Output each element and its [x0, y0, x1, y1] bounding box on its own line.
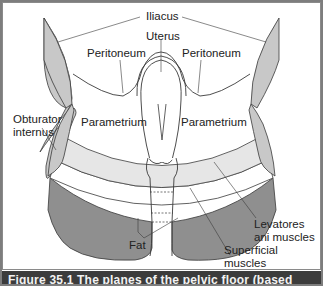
uterus: [141, 60, 181, 164]
leader-iliacus-left: [58, 17, 140, 42]
leader-peritoneum-right: [198, 60, 201, 93]
label-levatores-line2: ani muscles: [254, 231, 315, 244]
label-parametrium-right: Parametrium: [181, 116, 247, 129]
label-obturator-line2: internus: [13, 126, 62, 139]
label-obturator-line1: Obturator: [13, 113, 62, 126]
leader-iliacus-right: [182, 17, 266, 42]
label-iliacus: Iliacus: [146, 10, 179, 23]
label-levatores-line1: Levatores: [254, 218, 315, 231]
label-levatores-ani: Levatores ani muscles: [254, 218, 315, 243]
label-superficial-line2: muscles: [224, 257, 278, 270]
label-fat: Fat: [129, 239, 146, 252]
figure-frame: Iliacus Uterus Peritoneum Peritoneum Obt…: [0, 0, 323, 286]
label-obturator-internus: Obturator internus: [13, 113, 62, 138]
label-superficial-line1: Superficial: [224, 244, 278, 257]
label-peritoneum-left: Peritoneum: [87, 47, 146, 60]
label-uterus: Uterus: [146, 30, 180, 43]
iliacus-right: [251, 18, 279, 108]
label-parametrium-left: Parametrium: [81, 116, 147, 129]
label-peritoneum-right: Peritoneum: [182, 47, 241, 60]
label-superficial-muscles: Superficial muscles: [224, 244, 278, 269]
caption-bar: Figure 35.1 The planes of the pelvic flo…: [0, 271, 323, 286]
figure-caption: Figure 35.1 The planes of the pelvic flo…: [8, 273, 293, 286]
leader-peritoneum-left: [120, 60, 123, 93]
